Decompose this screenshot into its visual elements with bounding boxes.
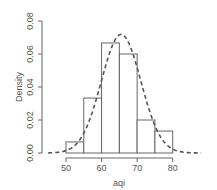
histogram-chart: 0.000.020.040.060.08 50607080 Density aq… bbox=[0, 0, 217, 190]
histogram-bar bbox=[66, 142, 84, 153]
y-tick-label: 0.02 bbox=[25, 111, 35, 129]
x-axis-title: aqi bbox=[113, 178, 125, 188]
x-tick-label: 70 bbox=[132, 163, 142, 173]
y-tick-label: 0.06 bbox=[25, 45, 35, 63]
histogram-bar bbox=[102, 43, 120, 153]
x-axis: 50607080 bbox=[61, 158, 178, 173]
histogram-bar bbox=[119, 54, 137, 153]
histogram-bar bbox=[84, 98, 102, 153]
y-axis: 0.000.020.040.060.08 bbox=[25, 12, 42, 162]
y-tick-label: 0.04 bbox=[25, 78, 35, 96]
histogram-bar bbox=[137, 120, 155, 153]
y-tick-label: 0.08 bbox=[25, 12, 35, 30]
x-tick-label: 80 bbox=[168, 163, 178, 173]
y-tick-label: 0.00 bbox=[25, 144, 35, 162]
y-axis-title: Density bbox=[14, 71, 24, 102]
x-tick-label: 50 bbox=[61, 163, 71, 173]
histogram-bars bbox=[66, 43, 173, 153]
x-tick-label: 60 bbox=[97, 163, 107, 173]
